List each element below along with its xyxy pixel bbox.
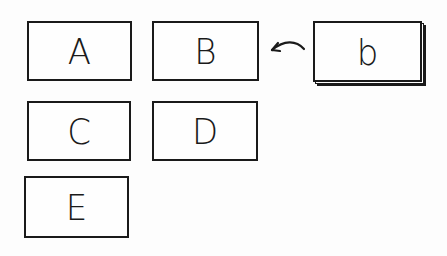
box-a: A (27, 21, 132, 81)
box-c-label: C (67, 113, 91, 149)
box-c: C (27, 101, 131, 161)
box-e-label: E (66, 189, 87, 225)
box-a-label: A (68, 33, 91, 69)
box-b-small-label: b (357, 34, 379, 70)
diagram-canvas: A B b C D E (0, 0, 447, 256)
box-d: D (152, 101, 258, 161)
box-d-label: D (192, 113, 218, 149)
box-b: B (152, 21, 259, 81)
box-e: E (24, 176, 129, 238)
box-b-label: B (194, 33, 216, 69)
curved-arrow-icon (266, 36, 308, 58)
box-b-small: b (313, 21, 422, 82)
